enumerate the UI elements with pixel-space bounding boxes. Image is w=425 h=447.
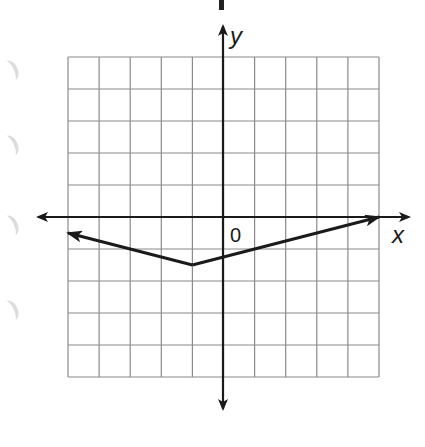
y-axis-label: y [228, 22, 244, 49]
coordinate-plane: y x 0 [0, 0, 425, 447]
x-axis-label: x [391, 221, 405, 248]
cropped-text-fragment [219, 0, 224, 10]
origin-label: 0 [230, 224, 241, 246]
